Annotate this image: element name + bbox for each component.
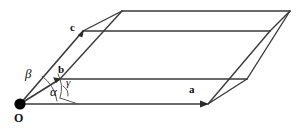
label-vector-a: a [189, 84, 195, 95]
label-origin: O [14, 112, 23, 124]
origin-dot [14, 98, 25, 109]
label-vector-c: c [70, 22, 75, 33]
label-vector-b: b [58, 64, 64, 75]
label-angle-gamma: γ [66, 77, 70, 88]
label-angle-beta: β [25, 67, 31, 80]
origin-dot-layer [0, 0, 302, 129]
unit-cell-figure: O a b c α β γ [0, 0, 302, 129]
label-angle-alpha: α [50, 85, 57, 98]
